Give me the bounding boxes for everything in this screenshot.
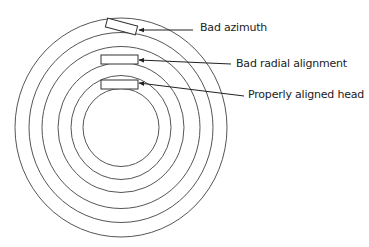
track-6 — [83, 89, 159, 167]
label-bad-radial-alignment: Bad radial alignment — [236, 57, 347, 71]
label-bad-azimuth: Bad azimuth — [200, 21, 267, 35]
disk-track-diagram — [0, 0, 369, 247]
head-bad-radial-alignment — [101, 55, 138, 64]
arrow-bad-radial-alignment — [139, 60, 231, 64]
label-properly-aligned-head: Properly aligned head — [248, 88, 364, 102]
read-write-heads — [101, 18, 138, 89]
track-3 — [42, 47, 200, 209]
head-properly-aligned-head — [101, 80, 138, 89]
disk-tracks — [15, 18, 227, 237]
track-1 — [15, 18, 227, 237]
track-5 — [71, 76, 171, 180]
callout-arrows — [139, 30, 244, 96]
